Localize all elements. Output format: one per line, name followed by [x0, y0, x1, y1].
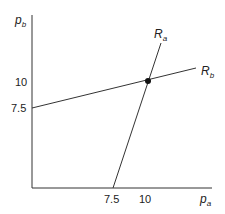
y-axis-label: pb: [14, 13, 27, 29]
y-tick-10: 10: [15, 76, 27, 88]
y-tick-7-5: 7.5: [11, 102, 26, 114]
reaction-curves-diagram: pb 10 7.5 7.5 10 pa Ra Rb: [0, 0, 225, 214]
rb-label: Rb: [201, 64, 215, 80]
x-axis-label: pa: [199, 192, 212, 208]
ra-line: [113, 43, 161, 188]
rb-line: [32, 68, 196, 108]
equilibrium-point: [145, 78, 151, 84]
ra-label: Ra: [154, 27, 168, 43]
x-tick-7-5: 7.5: [104, 193, 119, 205]
x-tick-10: 10: [139, 193, 151, 205]
